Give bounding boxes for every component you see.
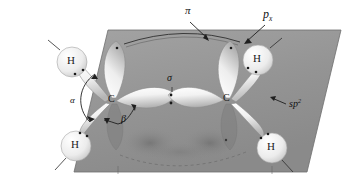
hydrogen-atom-bottom-right: H: [267, 141, 275, 152]
beta-angle-label: β: [121, 114, 126, 124]
px-orbital-label-subscript: x: [269, 14, 272, 23]
hydrogen-atom-top-right: H: [253, 53, 261, 64]
sigma-bond-label: σ: [167, 73, 172, 83]
hydrogen-atom-bottom-left: H: [71, 139, 79, 150]
carbon-atom-right: C: [223, 93, 230, 103]
sp2-hybrid-label-text: sp: [289, 98, 298, 109]
orbital-diagram-svg: [0, 0, 345, 184]
figure-canvas: π px σ sp2 α β C C H H H H: [0, 0, 345, 184]
px-orbital-label: px: [263, 8, 272, 23]
sp2-hybrid-label: sp2: [289, 98, 301, 109]
sp2-hybrid-label-superscript: 2: [298, 97, 301, 104]
carbon-atom-left: C: [108, 94, 115, 104]
hydrogen-atom-top-left: H: [67, 55, 75, 66]
alpha-angle-label: α: [70, 96, 75, 105]
pi-bond-label: π: [185, 5, 191, 16]
